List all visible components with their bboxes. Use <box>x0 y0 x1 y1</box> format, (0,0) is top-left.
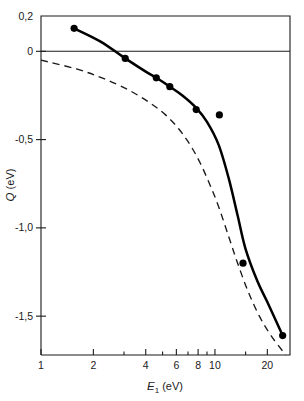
data-point-marker <box>193 106 200 113</box>
x-axis-tick-labels: 124681020 <box>38 359 273 371</box>
plot-frame <box>41 16 290 355</box>
x-tick-label: 8 <box>195 359 201 371</box>
x-tick-label: 2 <box>90 359 96 371</box>
data-point-marker <box>216 111 223 118</box>
svg-text:Q (eV): Q (eV) <box>4 169 16 202</box>
axes-frame <box>41 16 290 355</box>
y-axis-title: Q (eV) <box>4 169 16 202</box>
x-tick-label: 6 <box>173 359 179 371</box>
data-point-marker <box>153 74 160 81</box>
x-tick-label: 1 <box>38 359 44 371</box>
svg-text:E1 (eV): E1 (eV) <box>147 380 183 395</box>
x-axis-title: E1 (eV) <box>147 380 183 395</box>
data-point-marker <box>122 55 129 62</box>
x-axis-title-unit: (eV) <box>159 380 183 392</box>
chart-canvas: 124681020 0,20-0,5-1,0-1,5 E1 (eV) Q (eV… <box>0 0 304 401</box>
y-axis-title-symbol: Q <box>4 192 16 201</box>
data-point-markers <box>71 25 287 339</box>
y-tick-label: -0,5 <box>15 133 33 145</box>
figure-container: 124681020 0,20-0,5-1,0-1,5 E1 (eV) Q (eV… <box>0 0 304 401</box>
x-tick-label: 10 <box>209 359 221 371</box>
y-axis-tick-labels: 0,20-0,5-1,0-1,5 <box>15 10 33 322</box>
data-point-marker <box>239 260 246 267</box>
y-tick-label: -1,5 <box>15 310 33 322</box>
y-tick-label: 0,2 <box>18 10 33 22</box>
x-tick-label: 20 <box>261 359 273 371</box>
y-tick-label: -1,0 <box>15 221 33 233</box>
theoretical-dashed-curve <box>41 60 286 355</box>
data-point-marker <box>279 332 286 339</box>
y-tick-label: 0 <box>27 45 33 57</box>
fitted-solid-curve <box>74 28 283 335</box>
x-axis-ticks <box>41 349 267 355</box>
y-axis-title-unit: (eV) <box>4 169 16 193</box>
data-layer <box>41 25 286 355</box>
x-tick-label: 4 <box>143 359 149 371</box>
data-point-marker <box>71 25 78 32</box>
data-point-marker <box>166 83 173 90</box>
